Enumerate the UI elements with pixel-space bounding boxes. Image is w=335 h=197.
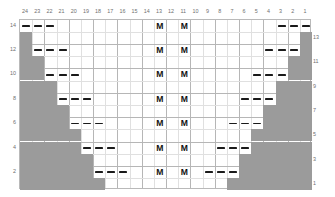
no-stitch-cell <box>300 32 312 44</box>
no-stitch-cell <box>20 129 81 141</box>
dash-symbol <box>83 147 91 149</box>
column-number: 15 <box>129 7 141 15</box>
no-stitch-cell <box>263 105 312 117</box>
dash-symbol <box>241 123 249 125</box>
m-symbol: M <box>178 44 190 56</box>
row-number-right: 3 <box>313 153 326 165</box>
dash-symbol <box>71 123 79 125</box>
dash-symbol <box>278 49 286 51</box>
dash-symbol <box>107 171 115 173</box>
no-stitch-cell <box>20 32 32 44</box>
dash-symbol <box>34 25 42 27</box>
m-symbol: M <box>154 117 166 129</box>
no-stitch-cell <box>20 154 93 166</box>
column-number: 4 <box>262 7 274 15</box>
column-number: 1 <box>299 7 311 15</box>
no-stitch-cell <box>20 81 57 93</box>
dash-symbol <box>34 49 42 51</box>
no-stitch-cell <box>20 178 105 190</box>
column-number: 18 <box>92 7 104 15</box>
dash-symbol <box>205 171 213 173</box>
dash-symbol <box>59 98 67 100</box>
dash-symbol <box>217 171 225 173</box>
row-number-right: 1 <box>313 177 326 189</box>
row-number-left: 12 <box>3 43 16 55</box>
no-stitch-cell <box>20 117 69 129</box>
dash-symbol <box>302 25 310 27</box>
no-stitch-cell <box>20 56 44 68</box>
dash-symbol <box>265 98 273 100</box>
dash-symbol <box>95 171 103 173</box>
dash-symbol <box>217 147 225 149</box>
gridline-horizontal <box>20 32 310 33</box>
row-number-right: 11 <box>313 55 326 67</box>
row-number-right: 5 <box>313 128 326 140</box>
dash-symbol <box>95 123 103 125</box>
column-number: 16 <box>116 7 128 15</box>
column-number: 23 <box>31 7 43 15</box>
dash-symbol <box>265 74 273 76</box>
row-number-right: 9 <box>313 80 326 92</box>
no-stitch-cell <box>288 68 312 80</box>
no-stitch-cell <box>288 56 312 68</box>
dash-symbol <box>229 147 237 149</box>
no-stitch-cell <box>300 44 312 56</box>
column-number: 7 <box>226 7 238 15</box>
dash-symbol <box>119 171 127 173</box>
dash-symbol <box>278 25 286 27</box>
row-number-left: 4 <box>3 141 16 153</box>
column-number: 22 <box>43 7 55 15</box>
dash-symbol <box>241 147 249 149</box>
dash-symbol <box>278 74 286 76</box>
column-number: 20 <box>68 7 80 15</box>
gridline-horizontal <box>20 81 310 82</box>
column-number: 10 <box>189 7 201 15</box>
no-stitch-cell <box>239 166 312 178</box>
m-symbol: M <box>178 20 190 32</box>
column-number: 19 <box>80 7 92 15</box>
dash-symbol <box>46 74 54 76</box>
no-stitch-cell <box>20 68 44 80</box>
knitting-chart: 242322212019181716151413121110987654321 … <box>0 0 335 197</box>
chart-grid[interactable]: MMMMMMMMMMMMMM <box>19 19 311 190</box>
column-number: 21 <box>56 7 68 15</box>
m-symbol: M <box>178 93 190 105</box>
dash-symbol <box>229 123 237 125</box>
m-symbol: M <box>154 93 166 105</box>
column-number: 8 <box>214 7 226 15</box>
row-number-right: 13 <box>313 31 326 43</box>
dash-symbol <box>253 74 261 76</box>
no-stitch-cell <box>276 81 313 93</box>
dash-symbol <box>59 74 67 76</box>
m-symbol: M <box>178 166 190 178</box>
m-symbol: M <box>154 142 166 154</box>
dash-symbol <box>241 98 249 100</box>
dash-symbol <box>46 25 54 27</box>
m-symbol: M <box>154 44 166 56</box>
dash-symbol <box>95 147 103 149</box>
no-stitch-cell <box>20 105 69 117</box>
dash-symbol <box>83 123 91 125</box>
column-number: 6 <box>238 7 250 15</box>
no-stitch-cell <box>20 93 57 105</box>
dash-symbol <box>59 49 67 51</box>
no-stitch-cell <box>227 178 312 190</box>
no-stitch-cell <box>251 129 312 141</box>
m-symbol: M <box>178 142 190 154</box>
column-number: 3 <box>275 7 287 15</box>
row-number-left: 10 <box>3 67 16 79</box>
dash-symbol <box>290 25 298 27</box>
column-number: 14 <box>141 7 153 15</box>
column-number: 5 <box>250 7 262 15</box>
dash-symbol <box>265 49 273 51</box>
no-stitch-cell <box>20 166 93 178</box>
column-number: 2 <box>287 7 299 15</box>
column-number: 13 <box>153 7 165 15</box>
m-symbol: M <box>154 68 166 80</box>
dash-symbol <box>46 49 54 51</box>
row-number-left: 6 <box>3 116 16 128</box>
no-stitch-cell <box>20 44 32 56</box>
column-number: 12 <box>165 7 177 15</box>
no-stitch-cell <box>276 93 313 105</box>
row-number-left: 14 <box>3 19 16 31</box>
